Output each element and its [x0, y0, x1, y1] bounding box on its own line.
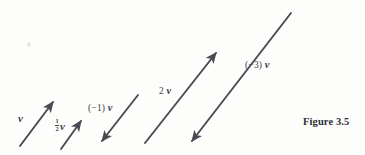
scalar-negative-three: (−3): [245, 60, 262, 70]
vector-label-negative-1-v: (−1) v: [88, 103, 113, 114]
fraction-one-half: 12: [55, 118, 59, 132]
vector-arrow-negative-3-v: [192, 13, 291, 141]
vector-arrow-2-v: [145, 53, 216, 143]
figure-3-5: v 12v (−1) v 2 v (−3) v Figure 3.5: [0, 0, 365, 155]
vector-symbol-v: v: [265, 59, 270, 70]
vector-symbol-v: v: [60, 120, 65, 132]
figure-caption: Figure 3.5: [303, 116, 349, 127]
scalar-negative-one: (−1): [88, 103, 105, 113]
scalar-two: 2: [159, 86, 164, 96]
vector-label-negative-3-v: (−3) v: [245, 60, 270, 71]
vector-symbol-v: v: [108, 102, 113, 113]
vector-label-half-v: 12v: [55, 118, 65, 132]
vector-arrow-v: [20, 102, 53, 146]
vector-label-v: v: [18, 113, 23, 124]
fraction-denominator: 2: [55, 126, 59, 133]
vector-symbol-v: v: [167, 85, 172, 96]
vector-label-2-v: 2 v: [159, 86, 171, 97]
